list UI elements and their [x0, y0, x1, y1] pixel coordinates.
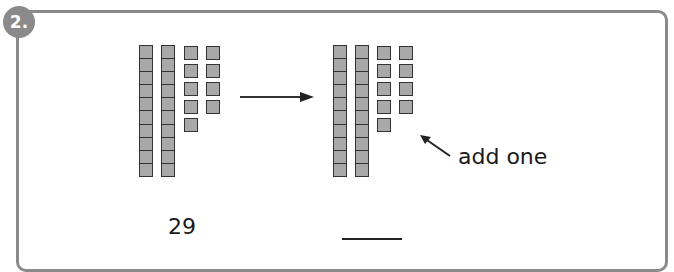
tens-rod	[139, 45, 153, 177]
add-one-label: add one	[458, 144, 547, 169]
ones-cube	[399, 82, 413, 96]
tens-rod	[161, 45, 175, 177]
ones-cube	[377, 118, 391, 132]
ones-cube	[377, 100, 391, 114]
ones-cube	[206, 64, 220, 78]
ones-cube	[399, 100, 413, 114]
diagonal-arrow-icon	[418, 133, 454, 159]
right-arrow-icon	[238, 89, 318, 105]
ones-cube	[377, 46, 391, 60]
ones-cube	[184, 118, 198, 132]
ones-cube	[184, 100, 198, 114]
ones-cube	[206, 46, 220, 60]
ones-cube	[184, 82, 198, 96]
answer-blank[interactable]	[342, 238, 402, 240]
ones-cube	[399, 46, 413, 60]
ones-cube	[184, 64, 198, 78]
ones-cube	[206, 100, 220, 114]
ones-cube	[377, 64, 391, 78]
ones-cube	[184, 46, 198, 60]
tens-rod	[333, 45, 347, 177]
left-value-label: 29	[168, 214, 196, 239]
tens-rod	[355, 45, 369, 177]
question-number-badge: 2.	[3, 6, 35, 38]
ones-cube	[399, 64, 413, 78]
ones-cube	[377, 82, 391, 96]
ones-cube	[206, 82, 220, 96]
